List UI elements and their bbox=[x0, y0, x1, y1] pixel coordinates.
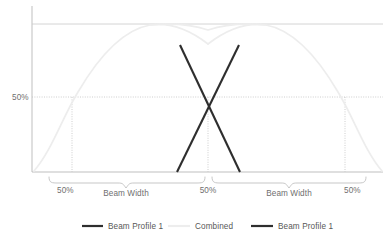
x-tick-label-left-50: 50% bbox=[57, 186, 74, 195]
beam-width-label-left: Beam Width bbox=[103, 189, 149, 198]
chart-canvas: 50% 50% Beam Width 50% Beam Width 50% Be… bbox=[0, 0, 388, 242]
beam-profile-chart: 50% 50% Beam Width 50% Beam Width 50% Be… bbox=[0, 0, 388, 242]
y-tick-label-50: 50% bbox=[12, 93, 29, 102]
legend-label-beam-profile-1-left: Beam Profile 1 bbox=[108, 222, 163, 231]
beam-width-label-right: Beam Width bbox=[266, 189, 312, 198]
legend-label-beam-profile-1-right: Beam Profile 1 bbox=[278, 222, 333, 231]
combined-curve-left bbox=[34, 24, 208, 171]
combined-curve-right bbox=[208, 24, 382, 171]
x-tick-label-right-50: 50% bbox=[344, 186, 361, 195]
x-tick-label-center-50: 50% bbox=[200, 186, 217, 195]
chart-legend: Beam Profile 1 Combined Beam Profile 1 bbox=[82, 222, 333, 231]
legend-label-combined: Combined bbox=[195, 222, 233, 231]
brace-right bbox=[212, 177, 366, 188]
legend-item-combined[interactable]: Combined bbox=[168, 222, 233, 231]
beam-profile-lines bbox=[177, 45, 240, 172]
chart-axes bbox=[32, 6, 383, 172]
beam-profile-line-left bbox=[180, 45, 240, 172]
legend-item-beam-profile-1-left[interactable]: Beam Profile 1 bbox=[82, 222, 163, 231]
legend-item-beam-profile-1-right[interactable]: Beam Profile 1 bbox=[251, 222, 333, 231]
